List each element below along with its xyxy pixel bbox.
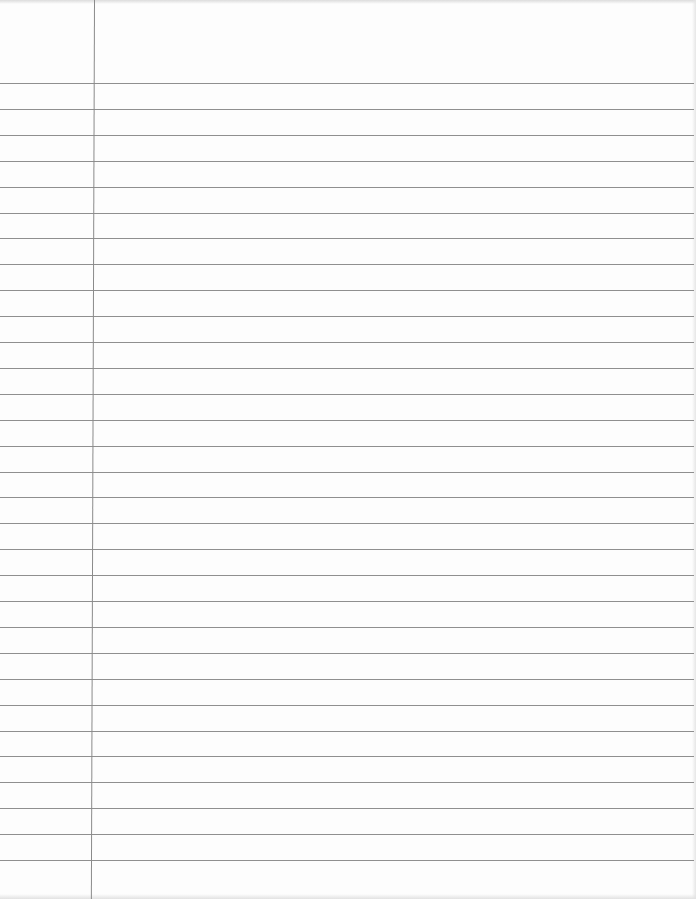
- ruled-line: [0, 834, 694, 835]
- ruled-line: [0, 83, 694, 84]
- ruled-line: [0, 161, 694, 162]
- ruled-line: [0, 342, 694, 343]
- ruled-line: [0, 705, 694, 706]
- ruled-line: [0, 238, 694, 239]
- ruled-line: [0, 290, 694, 291]
- ruled-line: [0, 316, 694, 317]
- ruled-line: [0, 187, 694, 188]
- ruled-line: [0, 368, 694, 369]
- ruled-line: [0, 653, 694, 654]
- ruled-line: [0, 264, 694, 265]
- ruled-line: [0, 601, 694, 602]
- ruled-line: [0, 679, 694, 680]
- ruled-line: [0, 549, 694, 550]
- ruled-line: [0, 497, 694, 498]
- ruled-lines-container: [0, 0, 696, 899]
- ruled-line: [0, 627, 694, 628]
- ruled-line: [0, 420, 694, 421]
- ruled-line: [0, 523, 694, 524]
- ruled-line: [0, 731, 694, 732]
- ruled-line: [0, 394, 694, 395]
- ruled-line: [0, 109, 694, 110]
- ruled-line: [0, 213, 694, 214]
- ruled-line: [0, 446, 694, 447]
- ruled-line: [0, 135, 694, 136]
- ruled-line: [0, 808, 694, 809]
- ruled-line: [0, 782, 694, 783]
- lined-paper-sheet: [0, 0, 696, 899]
- ruled-line: [0, 860, 694, 861]
- ruled-line: [0, 472, 694, 473]
- ruled-line: [0, 575, 694, 576]
- ruled-line: [0, 756, 694, 757]
